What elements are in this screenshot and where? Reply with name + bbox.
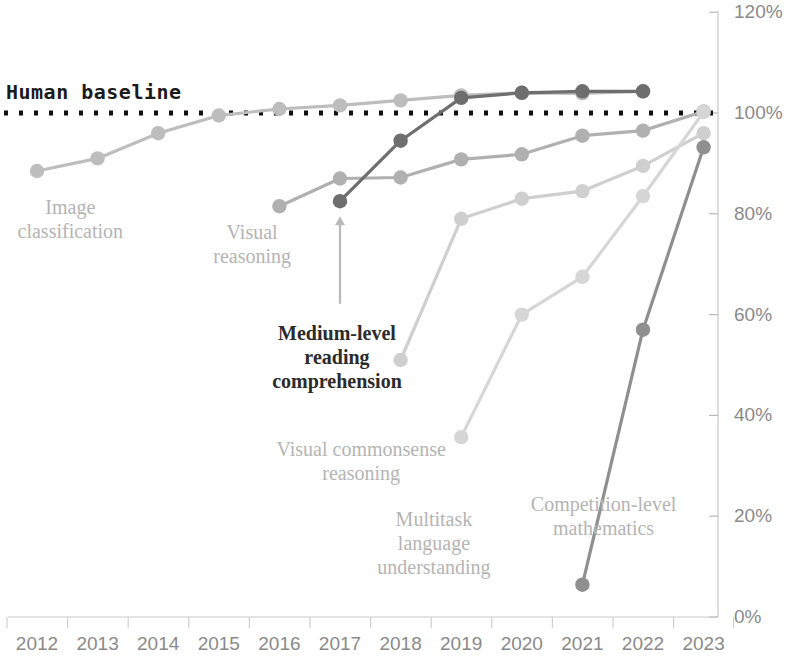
series-label-image-classification: Imageclassification bbox=[18, 196, 124, 242]
data-point bbox=[393, 170, 407, 184]
x-axis-tick-label: 2023 bbox=[682, 633, 724, 654]
data-point bbox=[454, 152, 468, 166]
x-axis-tick-label: 2016 bbox=[258, 633, 300, 654]
series-label-multitask-language-understanding: Multitasklanguageunderstanding bbox=[377, 508, 490, 579]
data-point bbox=[636, 323, 650, 337]
x-axis-tick-label: 2021 bbox=[561, 633, 603, 654]
x-axis-tick-label: 2017 bbox=[319, 633, 361, 654]
x-axis-tick-label: 2014 bbox=[137, 633, 180, 654]
series-label-line: reading bbox=[304, 346, 369, 369]
data-point bbox=[696, 140, 710, 154]
data-point bbox=[696, 105, 710, 119]
x-axis-tick-label: 2012 bbox=[16, 633, 58, 654]
data-point bbox=[272, 199, 286, 213]
y-axis: 0%20%40%60%80%100%120% bbox=[709, 1, 783, 627]
y-axis-tick-label: 80% bbox=[734, 203, 772, 224]
data-point bbox=[575, 578, 589, 592]
data-point bbox=[30, 164, 44, 178]
x-axis-tick-label: 2020 bbox=[501, 633, 543, 654]
human-baseline-label: Human baseline bbox=[6, 80, 182, 104]
series-label-line: language bbox=[398, 532, 470, 555]
data-point bbox=[393, 93, 407, 107]
data-point bbox=[393, 134, 407, 148]
y-axis-tick-label: 100% bbox=[734, 102, 783, 123]
data-point bbox=[90, 151, 104, 165]
data-point bbox=[515, 192, 529, 206]
data-point bbox=[636, 189, 650, 203]
x-axis-tick-label: 2013 bbox=[76, 633, 118, 654]
data-point bbox=[393, 353, 407, 367]
data-point bbox=[272, 102, 286, 116]
data-point bbox=[454, 430, 468, 444]
series-label-line: Visual commonsense bbox=[277, 438, 446, 460]
data-point bbox=[636, 123, 650, 137]
annotation-arrow-head bbox=[335, 216, 345, 225]
data-point bbox=[454, 212, 468, 226]
series-label-competition-level-mathematics: Competition-levelmathematics bbox=[531, 493, 677, 539]
y-axis-tick-label: 60% bbox=[734, 304, 772, 325]
series-label-line: reasoning bbox=[213, 245, 291, 268]
series-label-line: mathematics bbox=[553, 517, 654, 539]
annotation-layer: ImageclassificationVisualreasoningMedium… bbox=[18, 196, 677, 579]
data-point bbox=[333, 194, 347, 208]
chart-canvas: 0%20%40%60%80%100%120% 20122013201420152… bbox=[0, 0, 803, 661]
data-point bbox=[454, 91, 468, 105]
data-point bbox=[515, 307, 529, 321]
series-label-line: Competition-level bbox=[531, 493, 677, 516]
x-axis: 2012201320142015201620172018201920202021… bbox=[7, 617, 734, 654]
data-point bbox=[636, 159, 650, 173]
series-label-line: classification bbox=[18, 220, 124, 242]
series-label-line: Image bbox=[45, 196, 95, 219]
series-label-visual-reasoning: Visualreasoning bbox=[213, 221, 291, 268]
series-label-visual-commonsense-reasoning: Visual commonsensereasoning bbox=[277, 438, 446, 485]
data-point bbox=[636, 84, 650, 98]
series-label-line: comprehension bbox=[272, 370, 402, 393]
series-visual-commonsense-reasoning bbox=[393, 126, 710, 367]
data-point bbox=[575, 84, 589, 98]
series-label-line: Medium-level bbox=[278, 322, 396, 344]
y-axis-tick-label: 40% bbox=[734, 404, 772, 425]
x-axis-tick-label: 2019 bbox=[440, 633, 482, 654]
series-label-line: reasoning bbox=[322, 462, 400, 485]
data-point bbox=[515, 86, 529, 100]
data-point bbox=[515, 147, 529, 161]
series-label-line: Multitask bbox=[396, 508, 473, 530]
series-label-medium-level-reading-comprehension: Medium-levelreadingcomprehension bbox=[272, 322, 402, 393]
y-axis-tick-label: 120% bbox=[734, 1, 783, 22]
data-point bbox=[696, 126, 710, 140]
series-label-line: Visual bbox=[227, 221, 278, 243]
series-label-line: understanding bbox=[377, 556, 490, 579]
data-point bbox=[575, 129, 589, 143]
data-point bbox=[575, 270, 589, 284]
x-axis-tick-label: 2022 bbox=[622, 633, 664, 654]
y-axis-tick-label: 0% bbox=[734, 606, 762, 627]
human-baseline-line: Human baseline bbox=[4, 80, 716, 113]
data-point bbox=[212, 108, 226, 122]
data-point bbox=[575, 184, 589, 198]
data-point bbox=[333, 171, 347, 185]
data-point bbox=[333, 98, 347, 112]
y-axis-tick-label: 20% bbox=[734, 505, 772, 526]
data-point bbox=[151, 126, 165, 140]
ai-benchmark-progress-chart: 0%20%40%60%80%100%120% 20122013201420152… bbox=[0, 0, 803, 661]
series-line bbox=[401, 133, 704, 360]
x-axis-tick-label: 2015 bbox=[198, 633, 240, 654]
x-axis-tick-label: 2018 bbox=[379, 633, 421, 654]
